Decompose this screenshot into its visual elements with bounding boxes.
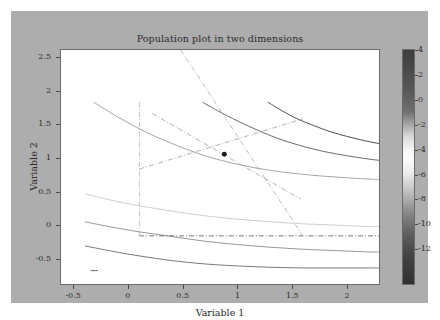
contour-line xyxy=(85,194,379,227)
x-tick-mark xyxy=(237,285,238,289)
colorbar-tick-label: -8 xyxy=(418,194,426,203)
colorbar-tick-label: -10 xyxy=(418,219,431,228)
y-tick-label: 1.5 xyxy=(21,119,51,128)
y-tick-label: 2.5 xyxy=(21,52,51,61)
y-tick-mark xyxy=(56,158,60,159)
x-tick-label: 0 xyxy=(113,291,143,300)
constraint-steep-descending xyxy=(181,50,303,236)
colorbar-tick-label: -12 xyxy=(418,244,431,253)
colorbar-tick-label: 2 xyxy=(418,70,423,79)
x-tick-mark xyxy=(183,285,184,289)
y-tick-mark xyxy=(56,91,60,92)
x-tick-label: -0.5 xyxy=(58,291,88,300)
x-tick-mark xyxy=(128,285,129,289)
y-tick-mark xyxy=(56,259,60,260)
x-tick-label: 1.5 xyxy=(277,291,307,300)
contour-line xyxy=(203,102,379,160)
x-tick-label: 1 xyxy=(222,291,252,300)
x-tick-label: 2 xyxy=(332,291,362,300)
optimum-point xyxy=(222,152,227,157)
y-tick-mark xyxy=(56,192,60,193)
figure-canvas: Population plot in two dimensions Variab… xyxy=(11,11,428,303)
plot-area xyxy=(60,49,380,285)
colorbar-tick-label: -2 xyxy=(418,120,426,129)
colorbar-tick-label: -6 xyxy=(418,170,426,179)
contour-plot-svg xyxy=(61,50,379,284)
y-tick-mark xyxy=(56,225,60,226)
x-tick-mark xyxy=(73,285,74,289)
y-tick-mark xyxy=(56,124,60,125)
y-tick-label: 0.5 xyxy=(21,187,51,196)
y-tick-label: -0.5 xyxy=(21,254,51,263)
colorbar xyxy=(402,49,415,285)
y-tick-mark xyxy=(56,57,60,58)
colorbar-tick-label: 0 xyxy=(418,95,423,104)
x-tick-mark xyxy=(347,285,348,289)
y-tick-label: 0 xyxy=(21,220,51,229)
constraint-diagonal-upward xyxy=(139,119,302,169)
x-tick-mark xyxy=(292,285,293,289)
x-axis-label: Variable 1 xyxy=(60,307,380,318)
y-tick-label: 1 xyxy=(21,153,51,162)
chart-screenshot: Population plot in two dimensions Variab… xyxy=(0,0,440,320)
colorbar-tick-label: -4 xyxy=(418,145,426,154)
contour-line xyxy=(94,102,379,180)
contour-line xyxy=(85,222,379,252)
chart-title: Population plot in two dimensions xyxy=(60,33,380,44)
x-tick-label: 0.5 xyxy=(168,291,198,300)
colorbar-tick-label: 4 xyxy=(418,45,423,54)
contour-line xyxy=(268,102,379,143)
y-tick-label: 2 xyxy=(21,86,51,95)
contour-line xyxy=(85,246,379,268)
constraint-diagonal-downward xyxy=(152,114,300,200)
